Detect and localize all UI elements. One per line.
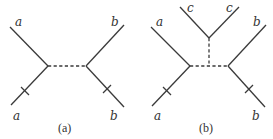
panel-b-line-upper-right (228, 25, 266, 66)
panel-b-line-top-right (209, 7, 239, 38)
feynman-diagram-figure: a a b b (a) a a b b c c (b) (0, 0, 273, 139)
panel-b-line-lower-left (152, 66, 190, 106)
panel-a-label-upper-left: a (15, 15, 22, 29)
panel-a-line-lower-left (11, 66, 48, 105)
panel-b: a a b b c c (b) (151, 1, 266, 135)
panel-b-line-lower-right (228, 66, 265, 107)
panel-b-line-top-left (180, 7, 209, 38)
panel-a-label-upper-right: b (111, 15, 119, 29)
panel-b-label-upper-left: a (156, 15, 163, 29)
panel-a: a a b b (a) (10, 15, 124, 135)
panel-b-label-upper-right: b (253, 15, 261, 29)
panel-b-label-lower-right: b (252, 109, 260, 123)
panel-b-label-lower-left: a (154, 109, 161, 123)
panel-a-line-lower-right (86, 66, 124, 107)
panel-b-label-top-left: c (187, 1, 194, 15)
panel-b-caption: (b) (199, 121, 213, 135)
panel-a-line-upper-left (10, 27, 48, 66)
panel-a-line-upper-right (86, 25, 124, 66)
panel-a-label-lower-right: b (110, 109, 118, 123)
panel-b-label-top-right: c (226, 1, 233, 15)
panel-a-label-lower-left: a (13, 109, 20, 123)
panel-b-line-upper-left (151, 27, 190, 66)
panel-a-caption: (a) (58, 121, 71, 135)
